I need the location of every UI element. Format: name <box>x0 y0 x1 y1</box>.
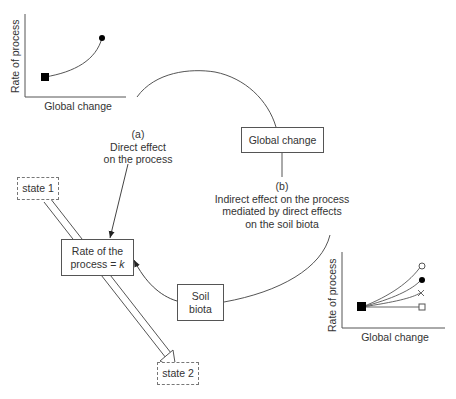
soil-line2: biota <box>189 303 212 316</box>
path-b-line1: Indirect effect on the process <box>202 193 362 206</box>
arrow-soil-to-rate <box>134 260 177 301</box>
inset-bottom-ylabel: Rate of process <box>326 258 338 332</box>
inset-top-ylabel: Rate of process <box>9 19 21 93</box>
inset-bottom-xlabel: Global change <box>355 331 435 344</box>
inset-chart-top-left <box>25 14 126 97</box>
start-square-marker <box>357 302 366 311</box>
inset-chart-bottom-right <box>342 252 445 328</box>
rate-line1: Rate of the <box>72 245 123 258</box>
path-b-line3: on the soil biota <box>202 218 362 231</box>
arrow-direct-effect <box>110 164 128 238</box>
cross-marker <box>418 290 424 296</box>
open-circle-marker <box>419 263 425 269</box>
response-curve <box>45 38 102 77</box>
soil-biota-node[interactable]: Soil biota <box>177 284 224 321</box>
path-b-tag: (b) <box>202 180 362 193</box>
rate-symbol-k: k <box>119 258 124 270</box>
state-2-node[interactable]: state 2 <box>157 362 199 385</box>
open-square-marker <box>419 304 425 310</box>
path-a-tag: (a) <box>88 128 188 141</box>
path-a-line1: Direct effect <box>88 141 188 154</box>
rate-line2: process = k <box>71 258 125 271</box>
path-b-line2: mediated by direct effects <box>202 205 362 218</box>
path-b-label: (b) Indirect effect on the process media… <box>202 180 362 230</box>
rate-of-process-node[interactable]: Rate of the process = k <box>61 239 134 276</box>
arc-b-to-soil <box>224 235 330 302</box>
start-square-marker <box>41 73 49 81</box>
global-change-node[interactable]: Global change <box>241 127 324 153</box>
state-1-node[interactable]: state 1 <box>17 177 59 200</box>
filled-circle-marker <box>419 277 425 283</box>
path-a-label: (a) Direct effect on the process <box>88 128 188 166</box>
arc-global-to-direct <box>137 71 276 127</box>
rate-line2-text: process = <box>71 258 120 270</box>
inset-top-xlabel: Global change <box>38 100 118 113</box>
end-circle-marker <box>99 35 105 41</box>
path-a-line2: on the process <box>88 153 188 166</box>
hollow-arrow-state-transition <box>44 198 176 369</box>
soil-line1: Soil <box>192 290 210 303</box>
